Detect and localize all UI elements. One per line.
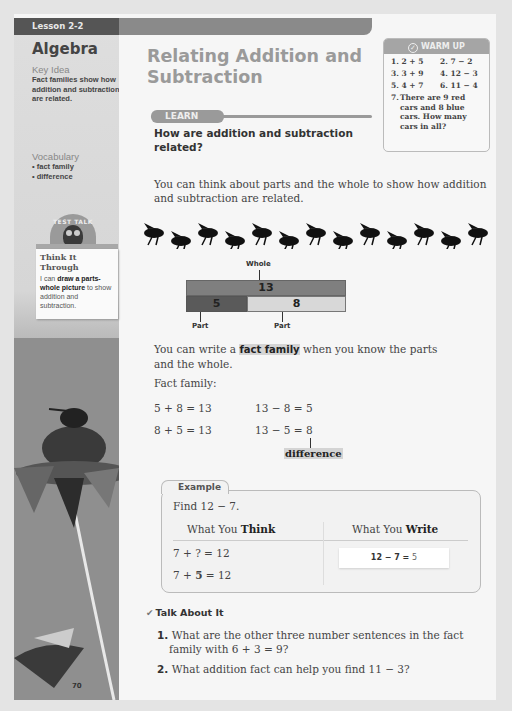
think-line-1: 7 + ? = 12 — [173, 547, 230, 559]
check-icon: ✔ — [146, 608, 154, 618]
warm-up-word-problem: 7.There are 9 red cars and 8 blue cars. … — [384, 90, 489, 131]
equation: 13 − 5 = 8 — [255, 424, 313, 436]
vocabulary-item: • difference — [32, 172, 74, 182]
warm-up-problem: 4. 12 − 3 — [440, 69, 490, 78]
talk-item: 2. What addition fact can help you find … — [157, 662, 487, 676]
warm-up-problem: 5. 4 + 7 — [391, 81, 440, 90]
key-idea-heading: Key Idea — [32, 64, 70, 75]
learn-question: How are addition and subtraction related… — [154, 126, 374, 154]
difference-label: difference — [284, 448, 343, 459]
example-divider — [173, 540, 468, 541]
whole-arrow-icon — [259, 270, 260, 280]
strand-title: Algebra — [32, 40, 98, 58]
key-idea-text: Fact families show how addition and subt… — [32, 75, 119, 104]
whole-label: Whole — [246, 260, 271, 268]
bar-part-2: 8 — [247, 296, 346, 312]
talk-item: 1. What are the other three number sente… — [157, 628, 487, 656]
textbook-page: Lesson 2-2 Algebra Key Idea Fact familie… — [14, 14, 496, 700]
equation: 8 + 5 = 13 — [154, 424, 212, 436]
check-circle-icon: ✓ — [408, 43, 418, 53]
think-line-2: 7 + 5 = 12 — [173, 569, 231, 581]
warm-up-problem: 3. 3 + 9 — [391, 69, 440, 78]
part-label: Part — [192, 322, 208, 330]
think-header: What You Think — [187, 523, 275, 535]
think-it-through-card: Think It Through I can draw a parts-whol… — [36, 249, 118, 319]
lesson-title: Relating Addition and Subtraction — [147, 46, 377, 88]
bar-part-1: 5 — [186, 296, 247, 312]
bar-whole: 13 — [186, 280, 346, 296]
page-number: 70 — [72, 682, 82, 690]
warm-up-problem: 1. 2 + 5 — [391, 57, 440, 66]
think-it-through-text: I can draw a parts-whole picture to show… — [40, 274, 114, 310]
fact-family-term: fact family — [239, 344, 299, 355]
part-arrow-icon — [282, 312, 283, 322]
sidebar: Lesson 2-2 Algebra Key Idea Fact familie… — [14, 18, 119, 700]
write-answer-card: 12 − 7 = 5 — [339, 548, 449, 568]
warm-up-problem: 2. 7 − 2 — [440, 57, 490, 66]
fact-family-label: Fact family: — [154, 376, 217, 390]
example-prompt: Find 12 − 7. — [173, 500, 239, 512]
vocabulary-list: • fact family • difference — [32, 162, 74, 181]
warm-up-heading: ✓WARM UP — [384, 39, 489, 54]
difference-arrow-icon — [310, 438, 311, 448]
header-bar — [119, 18, 372, 35]
learn-label: LEARN — [151, 110, 224, 123]
bee-row-illustration — [142, 219, 494, 249]
warm-up-problems: 1. 2 + 5 2. 7 − 2 3. 3 + 9 4. 12 − 3 5. … — [384, 54, 489, 90]
equation: 13 − 8 = 5 — [255, 402, 313, 414]
vocabulary-item: • fact family — [32, 162, 74, 172]
flower-bee-photo — [14, 338, 119, 700]
think-it-through-title: Think It Through — [40, 252, 114, 272]
warm-up-box: ✓WARM UP 1. 2 + 5 2. 7 − 2 3. 3 + 9 4. 1… — [383, 38, 490, 152]
vocabulary-heading: Vocabulary — [32, 151, 79, 162]
talk-about-it-heading: ✔Talk About It — [146, 607, 223, 618]
part-arrow-icon — [200, 312, 201, 322]
test-talk-label: TEST TALK — [50, 218, 96, 225]
lesson-label: Lesson 2-2 — [14, 18, 119, 35]
write-header: What You Write — [352, 523, 438, 535]
intro-paragraph: You can think about parts and the whole … — [154, 177, 494, 205]
equation: 5 + 8 = 13 — [154, 402, 212, 414]
part-label: Part — [274, 322, 290, 330]
fact-family-paragraph: You can write a fact family when you kno… — [154, 342, 454, 371]
example-tab: Example — [161, 480, 229, 494]
example-column-divider — [323, 522, 324, 585]
warm-up-problem: 6. 11 − 4 — [440, 81, 490, 90]
